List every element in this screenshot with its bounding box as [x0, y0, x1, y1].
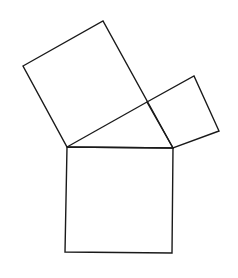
pythagorean-diagram — [0, 0, 238, 278]
square-on-short-leg — [147, 76, 219, 148]
square-on-hypotenuse — [65, 147, 173, 253]
triangle-hypotenuse-line — [67, 102, 147, 147]
